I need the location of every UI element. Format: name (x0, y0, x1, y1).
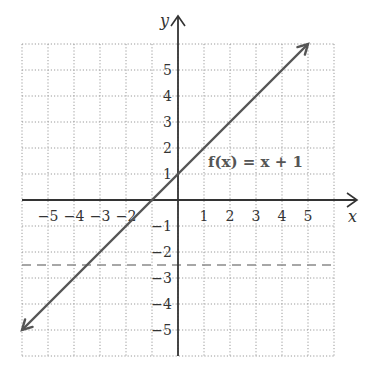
y-tick-label: 4 (163, 88, 172, 104)
x-tick-label: −3 (90, 208, 111, 224)
function-line (22, 44, 308, 330)
function-line-path (22, 44, 308, 330)
y-tick-label: −4 (151, 296, 172, 312)
y-tick-label: 3 (163, 114, 172, 130)
y-tick-label: −1 (151, 218, 172, 234)
function-label: f(x) = x + 1 (208, 153, 303, 171)
y-tick-label: 1 (163, 166, 172, 182)
axes (22, 16, 357, 356)
y-tick-label: −3 (151, 270, 172, 286)
y-tick-label: 5 (163, 62, 172, 78)
x-tick-label: 2 (226, 208, 235, 224)
y-tick-label: −5 (151, 322, 172, 338)
x-tick-label: 3 (252, 208, 261, 224)
x-tick-label: 5 (304, 208, 313, 224)
y-tick-label: −2 (151, 244, 172, 260)
x-tick-label: −5 (38, 208, 59, 224)
x-tick-label: 4 (278, 208, 287, 224)
coordinate-plane: −5−4−3−21234554321−1−2−3−4−5 x y f(x) = … (0, 0, 379, 375)
y-axis-label: y (159, 11, 170, 30)
x-axis-label: x (348, 207, 357, 226)
x-tick-label: −4 (64, 208, 85, 224)
x-tick-label: −2 (116, 208, 137, 224)
x-tick-label: 1 (200, 208, 209, 224)
y-tick-label: 2 (163, 140, 172, 156)
